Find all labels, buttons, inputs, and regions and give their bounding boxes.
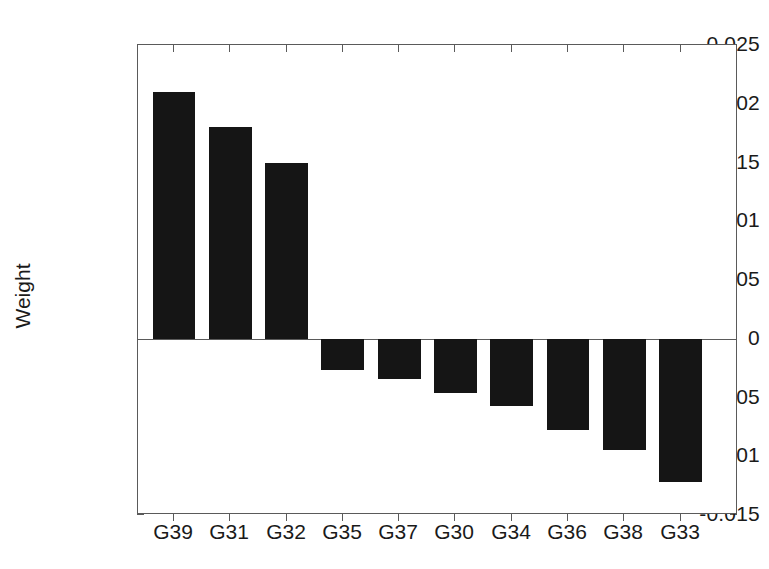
x-tick-mark-top: [398, 45, 399, 52]
x-tick-mark-top: [680, 45, 681, 52]
bar-g32: [265, 163, 308, 339]
y-tick-mark: [137, 514, 144, 515]
bar-g37: [378, 339, 421, 379]
x-tick-mark-top: [567, 45, 568, 52]
bar-g34: [490, 339, 533, 406]
x-tick-mark-top: [623, 45, 624, 52]
x-tick-mark-top: [286, 45, 287, 52]
x-tick-mark-top: [229, 45, 230, 52]
bar-g38: [603, 339, 646, 451]
figure-canvas: Weight 0.0250.020.0150.010.0050-0.005-0.…: [0, 0, 769, 569]
bar-g30: [434, 339, 477, 393]
x-tick-mark-top: [454, 45, 455, 52]
x-tick-label-g33: G33: [645, 521, 715, 542]
bar-g36: [547, 339, 590, 431]
x-tick-mark-top: [173, 45, 174, 52]
bar-g33: [659, 339, 702, 482]
y-axis-label: Weight: [12, 231, 33, 361]
plot-area: [137, 44, 737, 514]
bar-g31: [209, 127, 252, 339]
bar-g39: [153, 92, 196, 339]
bar-g35: [321, 339, 364, 371]
x-tick-mark-top: [342, 45, 343, 52]
x-tick-mark-top: [511, 45, 512, 52]
